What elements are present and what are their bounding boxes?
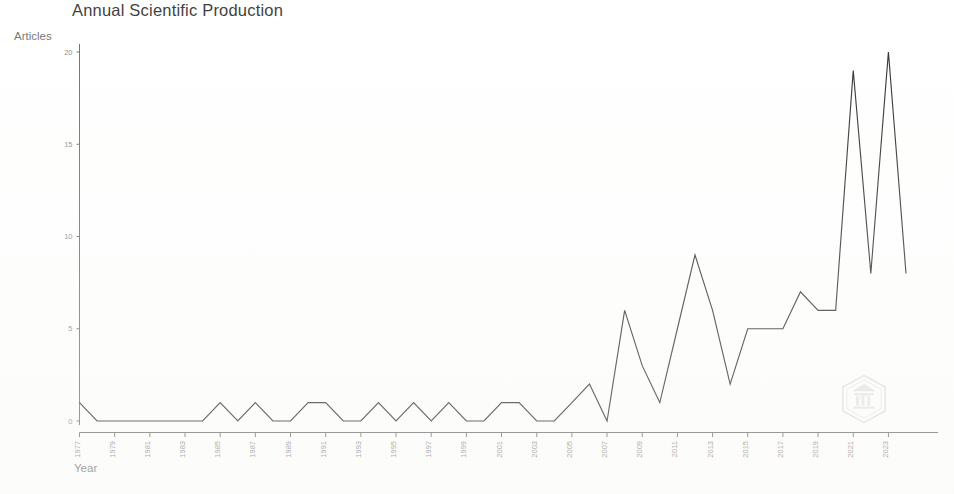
y-tick-label: 10	[64, 232, 72, 241]
x-tick-label: 1983	[178, 441, 187, 458]
x-tick-label: 1989	[284, 441, 293, 458]
x-tick-label: 2005	[565, 441, 574, 458]
x-tick-label: 1979	[108, 441, 117, 458]
x-tick-label: 2017	[776, 441, 785, 458]
x-tick-label: 2015	[741, 441, 750, 458]
y-tick-group: 05101520	[64, 48, 79, 426]
x-tick-label: 1991	[319, 441, 328, 458]
x-tick-label: 2011	[670, 441, 679, 457]
x-tick-label: 1977	[73, 441, 82, 458]
x-tick-label: 1987	[248, 441, 257, 458]
y-tick-label: 20	[64, 48, 72, 57]
x-tick-label: 1995	[389, 441, 398, 458]
x-tick-label: 2013	[706, 441, 715, 458]
annual-scientific-production-chart: Annual Scientific Production Articles Ye…	[0, 0, 954, 494]
y-tick-label: 0	[68, 417, 72, 426]
articles-line-series	[80, 52, 907, 421]
x-tick-label: 2007	[600, 441, 609, 458]
x-tick-group: 1977197919811983198519871989199119931995…	[73, 433, 891, 458]
x-tick-label: 1993	[354, 441, 363, 458]
x-tick-label: 1999	[459, 441, 468, 458]
plot-area: 05101520 1977197919811983198519871989199…	[0, 0, 954, 494]
x-tick-label: 2003	[530, 441, 539, 458]
x-tick-label: 2023	[881, 441, 890, 458]
x-tick-label: 1997	[424, 441, 433, 458]
x-tick-label: 2001	[495, 441, 504, 458]
x-tick-label: 1981	[143, 441, 152, 458]
y-tick-label: 15	[64, 140, 72, 149]
x-tick-label: 2019	[811, 441, 820, 458]
x-tick-label: 1985	[213, 441, 222, 458]
y-tick-label: 5	[68, 324, 72, 333]
x-tick-label: 2021	[846, 441, 855, 458]
x-tick-label: 2009	[635, 441, 644, 458]
